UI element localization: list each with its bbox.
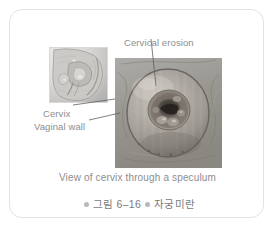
caption-korean: 그림 6–16자궁미란 bbox=[10, 196, 265, 211]
label-vaginal-wall: Vaginal wall bbox=[34, 121, 85, 132]
figure-card: Cervical erosion Cervix Vaginal wall Vie… bbox=[9, 9, 264, 218]
caption-figure-number: 그림 6–16 bbox=[93, 198, 141, 210]
main-cervix-speculum-image bbox=[115, 58, 222, 168]
main-photo-graphic bbox=[115, 58, 222, 168]
inset-photo-graphic bbox=[50, 48, 107, 102]
bullet-left-icon bbox=[84, 202, 89, 207]
bullet-right-icon bbox=[145, 202, 150, 207]
label-cervical-erosion: Cervical erosion bbox=[124, 37, 194, 48]
label-cervix: Cervix bbox=[43, 108, 71, 119]
inset-sagittal-anatomy-image bbox=[49, 47, 108, 103]
caption-english: View of cervix through a speculum bbox=[10, 172, 265, 183]
caption-figure-title: 자궁미란 bbox=[154, 198, 195, 210]
